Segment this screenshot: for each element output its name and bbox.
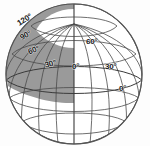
label-30-right: 30°: [105, 63, 117, 71]
label-0-right: 0°: [119, 85, 126, 93]
label-0-center: 0°: [72, 63, 79, 71]
label-60-upper: 60°: [86, 38, 98, 46]
globe-diagram: 120° 90° 60° 30° 60° 0° 30° 0°: [0, 0, 150, 146]
